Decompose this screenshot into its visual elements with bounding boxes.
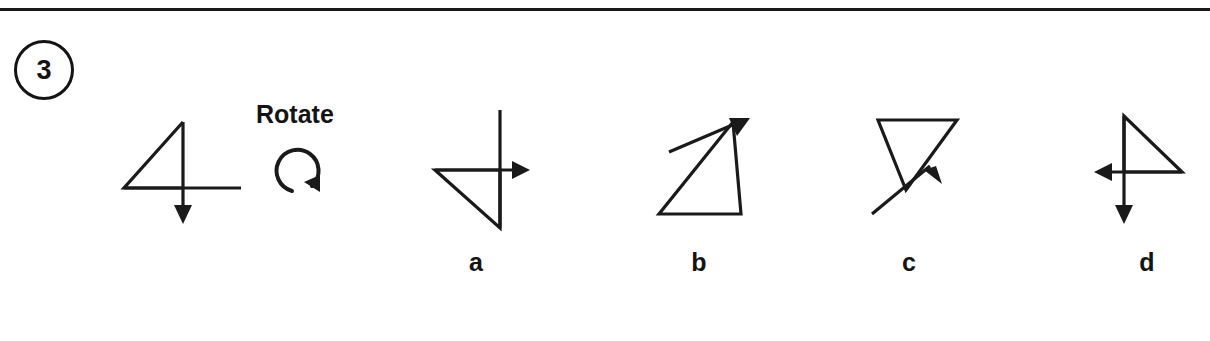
option-a-right-arrowhead xyxy=(512,161,530,179)
option-d-label: d xyxy=(1127,250,1167,275)
item-number-badge: 3 xyxy=(14,40,74,100)
prompt-triangle xyxy=(124,122,183,188)
option-d-down-arrowhead xyxy=(1115,205,1133,224)
option-c-figure[interactable] xyxy=(858,110,998,230)
option-b-label: b xyxy=(679,250,719,275)
rotate-label: Rotate xyxy=(256,100,334,129)
option-d-triangle xyxy=(1124,116,1182,172)
option-d-left-arrowhead xyxy=(1094,163,1112,181)
option-b-triangle xyxy=(659,122,741,214)
option-b-arrow-shaft xyxy=(669,123,737,152)
rotate-arrowhead xyxy=(304,175,320,192)
option-b-figure[interactable] xyxy=(645,110,785,230)
top-divider xyxy=(0,8,1210,11)
option-a-triangle xyxy=(435,170,500,228)
prompt-figure xyxy=(100,108,260,233)
prompt-down-arrowhead xyxy=(174,205,192,224)
item-number-text: 3 xyxy=(36,57,51,84)
rotate-clockwise-icon xyxy=(268,139,330,201)
option-c-label: c xyxy=(889,250,929,275)
option-a-label: a xyxy=(456,250,496,275)
worksheet-page: 3 Rotate xyxy=(0,0,1210,341)
option-a-figure[interactable] xyxy=(422,104,552,239)
option-d-figure[interactable] xyxy=(1072,104,1202,234)
option-c-triangle xyxy=(878,120,957,190)
